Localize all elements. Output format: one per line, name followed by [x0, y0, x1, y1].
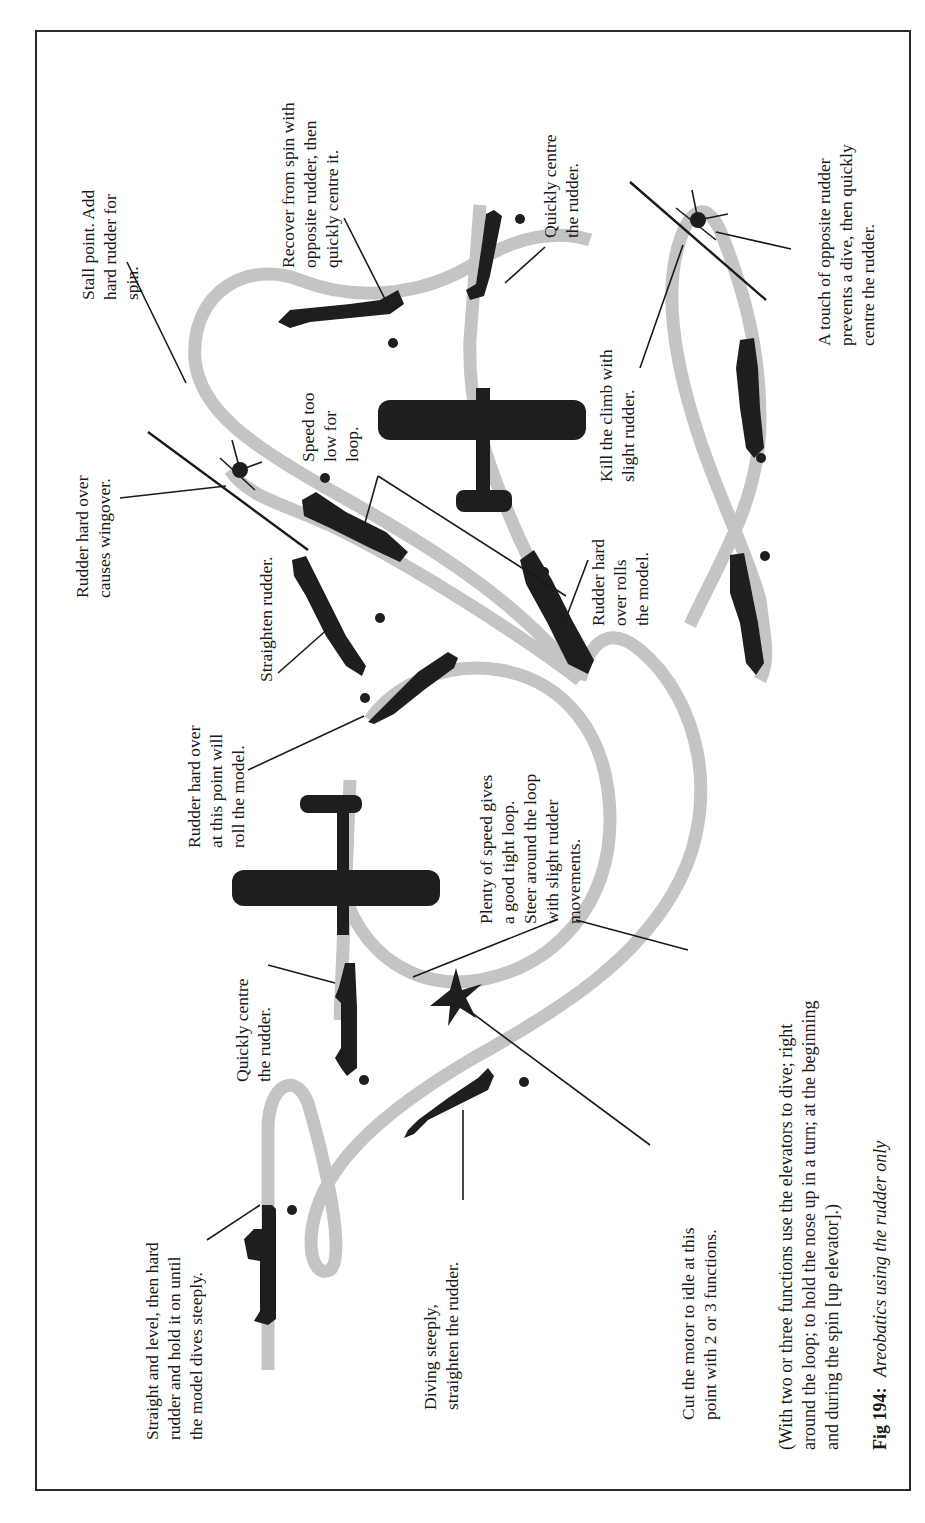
label-cut-motor: Cut the motor to idle at this point with…	[678, 1223, 720, 1420]
label-plenty-speed: Plenty of speed gives a good tight loop.…	[476, 769, 584, 924]
label-recover-spin: Recover from spin with opposite rudder, …	[278, 98, 342, 268]
position-dots	[287, 214, 770, 1215]
aerobatics-diagram: Straight and level, then hard rudder and…	[0, 0, 925, 1523]
plane-side-icon	[368, 652, 458, 724]
label-kill-climb: Kill the climb with slight rudder.	[596, 345, 638, 482]
label-touch-opposite: A touch of opposite rudder prevents a di…	[814, 140, 878, 346]
label-speed-low: Speed too low for loop.	[298, 388, 362, 462]
label-straight-level: Straight and level, then hard rudder and…	[142, 1238, 206, 1440]
figure-caption: Fig 194: Areobatics using the rudder onl…	[870, 1141, 890, 1450]
label-stall-point: Stall point. Add hard rudder for spin.	[78, 185, 142, 300]
plane-side-icon	[244, 1205, 276, 1325]
diagram-labels: Straight and level, then hard rudder and…	[72, 98, 890, 1450]
figure-note: (With two or three functions use the ele…	[776, 996, 843, 1450]
label-quickly-centre-right: Quickly centre the rudder.	[540, 130, 582, 238]
front-view-plane-icon	[148, 432, 308, 550]
plane-top-view-icon	[232, 795, 440, 935]
label-rolls-model: Rudder hard over rolls the model.	[588, 535, 652, 626]
front-view-plane-icon	[630, 182, 766, 300]
label-rudder-hard-point: Rudder hard over at this point will roll…	[184, 721, 248, 848]
label-diving-steeply: Diving steeply, straighten the rudder.	[420, 1262, 462, 1410]
plane-side-icon	[292, 556, 366, 676]
label-straighten-rudder: Straighten rudder.	[256, 557, 276, 682]
label-quickly-centre-left: Quickly centre the rudder.	[232, 974, 274, 1082]
plane-top-view-icon	[378, 388, 586, 512]
label-wingover: Rudder hard over causes wingover.	[72, 471, 114, 598]
